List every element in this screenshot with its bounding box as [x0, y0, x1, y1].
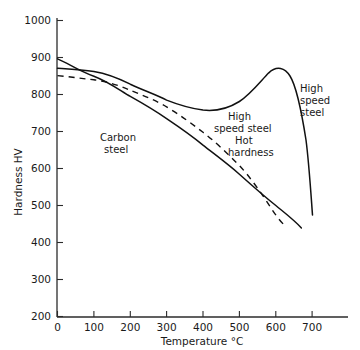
hot-hardness-label: High speed steel Hot hardness [214, 111, 274, 158]
hardness-vs-temperature-chart: 1000 900 800 700 600 500 400 300 200 0 1… [0, 0, 360, 350]
high-speed-steel-label-line-1: High [300, 83, 323, 94]
x-tick-label-700: 700 [302, 321, 322, 333]
x-tick-label-500: 500 [229, 321, 249, 333]
y-tick-label-700: 700 [31, 125, 51, 137]
x-tick-marks [58, 311, 313, 317]
y-tick-labels: 1000 900 800 700 600 500 400 300 200 [24, 14, 51, 322]
high-speed-steel-label: High speed steel [300, 83, 330, 118]
x-tick-label-400: 400 [193, 321, 213, 333]
y-tick-label-400: 400 [31, 236, 51, 248]
curve-high-speed-steel [58, 68, 313, 215]
y-tick-label-300: 300 [31, 273, 51, 285]
hot-hardness-label-line-4: hardness [228, 147, 274, 158]
curve-carbon-steel [58, 59, 302, 228]
y-tick-marks [57, 21, 63, 317]
axes [57, 18, 348, 317]
y-tick-label-1000: 1000 [24, 14, 51, 26]
high-speed-steel-label-line-3: steel [300, 107, 324, 118]
carbon-steel-label: Carbon steel [100, 132, 136, 155]
y-axis-label: Hardness HV [12, 147, 24, 215]
y-tick-label-800: 800 [31, 88, 51, 100]
hot-hardness-label-line-1: High [228, 111, 251, 122]
y-tick-label-200: 200 [31, 310, 51, 322]
hot-hardness-label-line-3: Hot [235, 135, 253, 146]
x-tick-label-100: 100 [84, 321, 104, 333]
carbon-steel-label-line-2: steel [104, 144, 128, 155]
high-speed-steel-label-line-2: speed [300, 95, 330, 106]
x-tick-label-0: 0 [54, 321, 61, 333]
y-tick-label-600: 600 [31, 162, 51, 174]
x-tick-labels: 0 100 200 300 400 500 600 700 [54, 321, 322, 333]
chart-figure: 1000 900 800 700 600 500 400 300 200 0 1… [0, 0, 360, 350]
y-tick-label-900: 900 [31, 51, 51, 63]
x-tick-label-200: 200 [120, 321, 140, 333]
carbon-steel-label-line-1: Carbon [100, 132, 136, 143]
x-axis-label: Temperature °C [160, 335, 243, 347]
y-tick-label-500: 500 [31, 199, 51, 211]
x-tick-label-600: 600 [266, 321, 286, 333]
data-curves [58, 59, 313, 228]
hot-hardness-label-line-2: speed steel [214, 123, 272, 134]
chart-annotations: Carbon steel High speed steel Hot hardne… [100, 83, 330, 158]
x-tick-label-300: 300 [157, 321, 177, 333]
